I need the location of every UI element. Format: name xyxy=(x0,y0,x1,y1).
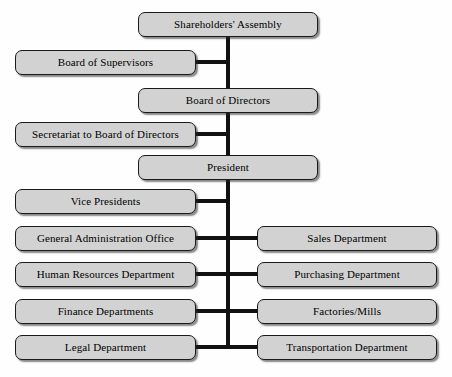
node-label: Purchasing Department xyxy=(294,269,400,281)
node-transportation-department[interactable]: Transportation Department xyxy=(257,335,437,360)
node-label: Human Resources Department xyxy=(37,269,175,281)
node-legal-department[interactable]: Legal Department xyxy=(15,335,196,360)
node-label: Legal Department xyxy=(65,342,146,354)
node-secretariat-to-board-of-directors[interactable]: Secretariat to Board of Directors xyxy=(15,122,196,147)
connector-vice-presidents xyxy=(196,199,230,203)
connector-legal-department xyxy=(196,345,230,349)
node-president[interactable]: President xyxy=(138,155,318,180)
node-purchasing-department[interactable]: Purchasing Department xyxy=(257,262,437,287)
node-label: Factories/Mills xyxy=(313,306,381,318)
connector-board-of-supervisors xyxy=(196,60,230,64)
connector-secretariat-to-board-of-directors xyxy=(196,132,230,136)
connector-general-administration-office xyxy=(196,236,230,240)
org-chart: Shareholders' Assembly Board of Supervis… xyxy=(0,0,452,377)
connector-transportation-department xyxy=(226,345,259,349)
node-sales-department[interactable]: Sales Department xyxy=(257,226,437,251)
node-label: Vice Presidents xyxy=(71,196,141,208)
connector-purchasing-department xyxy=(226,272,259,276)
vertical-trunk-line xyxy=(226,37,230,348)
node-label: Board of Directors xyxy=(186,95,270,107)
connector-finance-departments xyxy=(196,309,230,313)
connector-sales-department xyxy=(226,236,259,240)
connector-factories-mills xyxy=(226,309,259,313)
node-label: Secretariat to Board of Directors xyxy=(32,129,179,141)
node-label: Shareholders' Assembly xyxy=(174,19,282,31)
node-label: Sales Department xyxy=(307,233,387,245)
node-board-of-supervisors[interactable]: Board of Supervisors xyxy=(15,50,196,75)
node-human-resources-department[interactable]: Human Resources Department xyxy=(15,262,196,287)
node-label: Transportation Department xyxy=(286,342,408,354)
node-label: President xyxy=(207,162,249,174)
node-board-of-directors[interactable]: Board of Directors xyxy=(138,88,318,113)
node-vice-presidents[interactable]: Vice Presidents xyxy=(15,189,196,214)
node-shareholders-assembly[interactable]: Shareholders' Assembly xyxy=(138,12,318,37)
node-general-administration-office[interactable]: General Administration Office xyxy=(15,226,196,251)
node-label: General Administration Office xyxy=(37,233,174,245)
node-factories-mills[interactable]: Factories/Mills xyxy=(257,299,437,324)
node-label: Finance Departments xyxy=(58,306,154,318)
connector-human-resources-department xyxy=(196,272,230,276)
node-label: Board of Supervisors xyxy=(58,57,154,69)
node-finance-departments[interactable]: Finance Departments xyxy=(15,299,196,324)
